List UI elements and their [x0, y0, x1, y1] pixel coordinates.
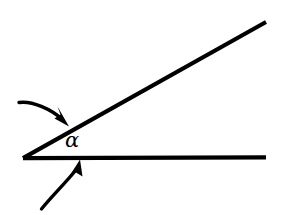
- angle-diagram: α: [0, 0, 282, 215]
- lower-arrow-head: [70, 160, 83, 177]
- upper-ray: [23, 22, 266, 158]
- upper-arrow-curve: [19, 102, 63, 119]
- lower-arrow: [42, 160, 83, 210]
- lower-arrow-curve: [42, 171, 76, 210]
- horizontal-ray: [23, 157, 266, 158]
- upper-arrow: [19, 102, 69, 126]
- angle-diagram-canvas: [0, 0, 282, 215]
- angle-label-alpha: α: [65, 130, 79, 151]
